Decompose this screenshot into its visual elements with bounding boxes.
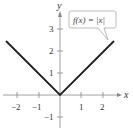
- abs-value-graph: −2 −1 1 2 3 2 1 −1 x y f(x) = |x|: [0, 0, 133, 134]
- x-axis-label: x: [123, 89, 129, 100]
- y-tick-label: 1: [49, 68, 54, 78]
- y-axis-label: y: [56, 0, 62, 11]
- x-tick-label: −2: [11, 102, 21, 112]
- x-tick-label: −1: [32, 102, 42, 112]
- callout-label: f(x) = |x|: [73, 15, 105, 25]
- y-tick-label: −1: [44, 112, 54, 122]
- y-tick-label: 2: [49, 46, 54, 56]
- y-tick-label: 3: [49, 24, 54, 34]
- y-axis-arrow-icon: [58, 11, 62, 17]
- x-axis-arrow-icon: [117, 93, 122, 97]
- x-tick-label: 2: [100, 102, 105, 112]
- x-tick-label: 1: [79, 102, 84, 112]
